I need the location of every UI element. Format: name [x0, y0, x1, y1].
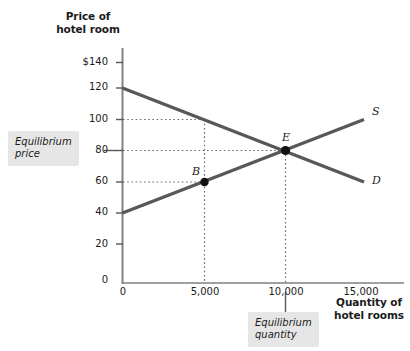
data-point-e: [281, 146, 290, 155]
x-tick-label-15000: 15,000: [336, 286, 386, 297]
y-tick-label-100: 100: [68, 113, 108, 124]
y-tick-label-40: 40: [68, 206, 108, 217]
x-tick-label-0: 0: [98, 286, 148, 297]
x-tick-label-5000: 5,000: [180, 286, 230, 297]
point-label-b: B: [192, 165, 200, 178]
y-tick-label-20: 20: [68, 238, 108, 249]
y-tick-label-140: $140: [68, 56, 108, 67]
x-axis-title-line1: Quantity of: [330, 296, 408, 309]
y-axis-title-line2: hotel room: [52, 23, 124, 36]
callout-equilibrium-quantity: Equilibrium quantity: [248, 312, 319, 347]
supply-demand-chart: Price of hotel room Quantity of hotel ro…: [0, 0, 410, 351]
x-axis-title-line2: hotel rooms: [330, 309, 408, 322]
callout-price-line2: price: [15, 148, 72, 160]
y-axis-title: Price of hotel room: [52, 10, 124, 35]
callout-price-line1: Equilibrium: [15, 136, 72, 148]
y-axis-title-line1: Price of: [52, 10, 124, 23]
y-tick-label-120: 120: [68, 81, 108, 92]
y-tick-label-0: 0: [68, 274, 108, 285]
callout-quantity-line1: Equilibrium: [255, 317, 312, 329]
curve-label-demand: D: [372, 174, 381, 187]
callout-equilibrium-price: Equilibrium price: [8, 131, 79, 166]
curve-label-supply: S: [372, 105, 380, 118]
point-label-e: E: [282, 131, 290, 144]
x-axis-title: Quantity of hotel rooms: [330, 296, 408, 321]
data-point-b: [200, 178, 208, 186]
x-tick-label-10000: 10,000: [261, 286, 311, 297]
y-tick-label-60: 60: [68, 175, 108, 186]
callout-quantity-line2: quantity: [255, 329, 312, 341]
